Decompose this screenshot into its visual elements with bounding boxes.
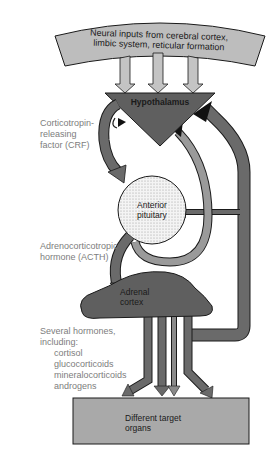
acth-annotation: Adrenocorticotropic hormone (ACTH) [40, 241, 118, 263]
target-organs-line1: Different target [125, 413, 225, 423]
hormones-line2: including: [40, 337, 127, 348]
hypothalamus-label: Hypothalamus [120, 97, 200, 107]
anterior-pituitary-label: Anterior pituitary [122, 200, 182, 220]
hormone-item: mineralocorticoids [40, 370, 127, 381]
anterior-pituitary-line1: Anterior [122, 200, 182, 210]
crf-line2: releasing [40, 129, 94, 140]
hormones-line1: Several hormones, [40, 326, 127, 337]
crf-line1: Corticotropin- [40, 118, 94, 129]
target-organs-label: Different target organs [125, 413, 225, 433]
crf-annotation: Corticotropin- releasing factor (CRF) [40, 118, 94, 151]
adrenal-cortex-line1: Adrenal [120, 287, 180, 297]
hormone-item: androgens [40, 381, 127, 392]
hormones-annotation: Several hormones, including: cortisol gl… [40, 326, 127, 392]
acth-line1: Adrenocorticotropic [40, 241, 118, 252]
crf-line3: factor (CRF) [40, 140, 94, 151]
neural-input-arrows [115, 53, 203, 93]
hormone-arrows [122, 315, 213, 398]
hormone-item: glucocorticoids [40, 359, 127, 370]
acth-line2: hormone (ACTH) [40, 252, 118, 263]
hormone-item: cortisol [40, 348, 127, 359]
target-organs-line2: organs [125, 423, 225, 433]
adrenal-cortex-line2: cortex [120, 297, 180, 307]
adrenal-cortex-label: Adrenal cortex [120, 287, 180, 307]
hpa-axis-diagram [0, 0, 275, 465]
anterior-pituitary-line2: pituitary [122, 210, 182, 220]
